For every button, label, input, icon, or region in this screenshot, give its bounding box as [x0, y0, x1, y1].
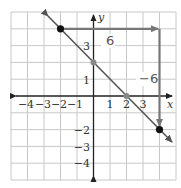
point-2-0 [124, 93, 130, 99]
x-tick-label: −1 [67, 98, 83, 111]
x-tick-label: 2 [123, 98, 130, 111]
rise-label: −6 [139, 71, 158, 86]
x-tick-label: −3 [35, 98, 51, 111]
y-tick-label: 1 [83, 74, 90, 87]
x-tick-label: 1 [107, 98, 114, 111]
x-tick-labels: −4 −3 −2 −1 1 2 3 [18, 98, 147, 111]
x-tick-label: −4 [18, 98, 34, 111]
point-4-neg2 [156, 126, 163, 133]
run-label: 6 [106, 33, 114, 48]
y-tick-label: −2 [74, 124, 90, 137]
y-axis-label: y [97, 11, 105, 24]
point-0-2 [91, 59, 97, 65]
y-tick-label: −3 [74, 141, 90, 154]
coordinate-plane: x y −4 −3 −2 −1 1 2 3 3 1 −2 −3 −4 6 −6 [0, 0, 181, 188]
point-neg2-4 [57, 25, 64, 32]
y-tick-label: 3 [83, 40, 90, 53]
y-tick-label: −4 [74, 157, 90, 170]
x-axis-label: x [167, 98, 174, 111]
x-tick-label: −2 [51, 98, 67, 111]
